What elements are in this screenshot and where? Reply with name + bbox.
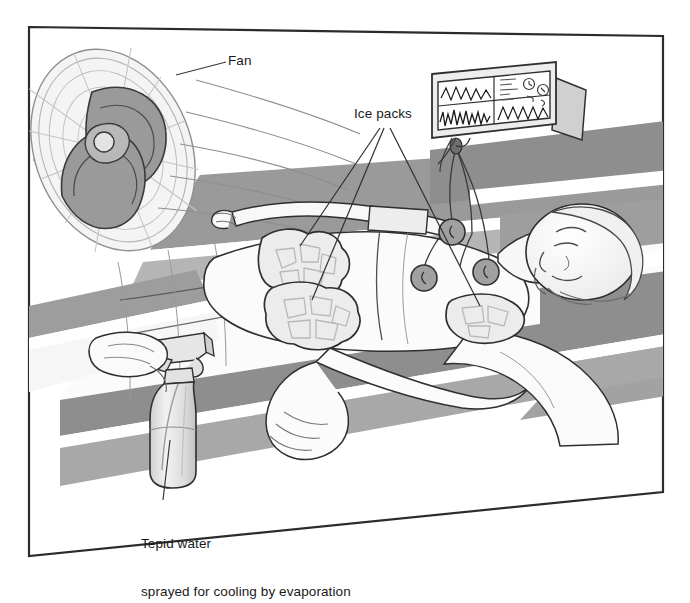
label-ice-packs: Ice packs: [354, 106, 412, 122]
label-fan: Fan: [228, 53, 252, 69]
label-tepid-water-line1: Tepid water: [141, 536, 351, 552]
label-tepid-water: Tepid water sprayed for cooling by evapo…: [141, 504, 351, 603]
label-tepid-water-line2: sprayed for cooling by evaporation: [141, 584, 351, 600]
